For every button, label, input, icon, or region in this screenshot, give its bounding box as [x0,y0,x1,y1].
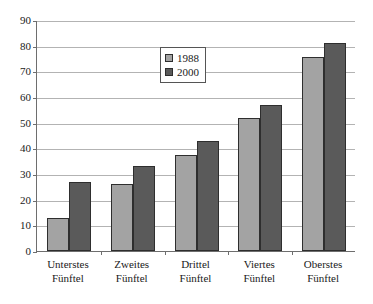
x-tickmark [165,251,166,255]
legend-swatch-2000 [165,68,173,76]
x-tickmark [101,251,102,255]
y-tick-label-0: 0 [26,246,32,257]
x-axis-labels: UnterstesFünftelZweitesFünftelDrittelFün… [36,258,355,298]
x-axis-label-line2: Fünftel [36,272,100,286]
x-axis-label-line2: Fünftel [291,272,355,286]
x-axis-label-line2: Fünftel [100,272,164,286]
bar-2000-oberstes-fünftel [324,43,346,251]
y-tickmark-10 [33,226,37,227]
y-tick-label-10: 10 [20,220,31,231]
x-axis-label-line1: Oberstes [304,258,343,270]
x-axis-label-zweites-fünftel: ZweitesFünftel [100,258,164,285]
bar-2000-unterstes-fünftel [69,182,91,251]
bar-2000-viertes-fünftel [260,105,282,251]
y-axis-labels: 0102030405060708090 [0,21,31,252]
bar-chart: 0102030405060708090 UnterstesFünftelZwei… [0,0,373,304]
chart-legend: 19882000 [160,47,206,83]
y-tickmark-50 [33,124,37,125]
y-tickmark-40 [33,149,37,150]
y-tick-label-90: 90 [20,15,31,26]
bar-1988-unterstes-fünftel [47,218,69,251]
x-axis-label-line2: Fünftel [227,272,291,286]
legend-item-1988: 1988 [165,51,199,65]
x-axis-label-unterstes-fünftel: UnterstesFünftel [36,258,100,285]
gridline-90 [37,21,355,22]
x-tickmark [292,251,293,255]
x-axis-label-oberstes-fünftel: OberstesFünftel [291,258,355,285]
legend-item-2000: 2000 [165,65,199,79]
bar-1988-viertes-fünftel [238,118,260,251]
y-tick-label-50: 50 [20,118,31,129]
x-tickmark [228,251,229,255]
x-axis-label-line1: Zweites [114,258,149,270]
y-tick-label-70: 70 [20,66,31,77]
y-tick-label-20: 20 [20,195,31,206]
y-tick-label-30: 30 [20,169,31,180]
x-axis-label-line1: Unterstes [47,258,89,270]
x-axis-label-drittel-fünftel: DrittelFünftel [164,258,228,285]
bar-2000-zweites-fünftel [133,166,155,251]
x-axis-label-line1: Viertes [244,258,275,270]
y-tickmark-30 [33,175,37,176]
legend-label-2000: 2000 [177,67,199,78]
y-tickmark-0 [33,252,37,253]
y-tick-label-60: 60 [20,92,31,103]
bar-1988-drittel-fünftel [175,155,197,251]
y-tickmark-90 [33,21,37,22]
y-tickmark-80 [33,47,37,48]
y-tick-label-40: 40 [20,143,31,154]
legend-swatch-1988 [165,54,173,62]
legend-label-1988: 1988 [177,53,199,64]
bar-2000-drittel-fünftel [197,141,219,251]
x-axis-label-viertes-fünftel: ViertesFünftel [227,258,291,285]
y-tickmark-20 [33,201,37,202]
x-axis-label-line1: Drittel [181,258,210,270]
y-tickmark-60 [33,98,37,99]
x-axis-label-line2: Fünftel [164,272,228,286]
y-tick-label-80: 80 [20,41,31,52]
bar-1988-oberstes-fünftel [302,57,324,251]
bar-1988-zweites-fünftel [111,184,133,251]
y-tickmark-70 [33,72,37,73]
